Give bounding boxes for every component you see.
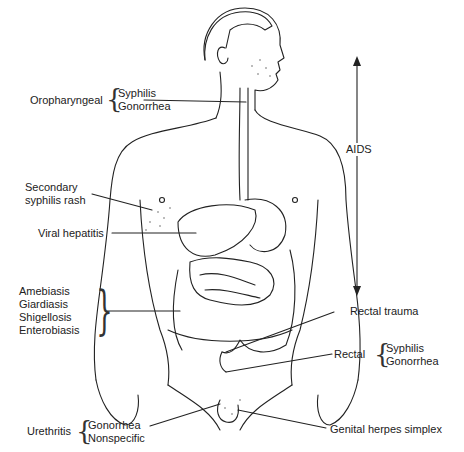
brace-intestinal: { [96,283,113,337]
label-intestinal-infections: Amebiasis Giardiasis Shigellosis Enterob… [19,285,80,337]
aids-arrow-down-icon [353,286,361,296]
torso-left [94,118,216,380]
label-rectal: Rectal [334,348,365,361]
label-urethritis: Urethritis [27,425,71,438]
label-viral-hepatitis: Viral hepatitis [38,227,104,240]
disease-shigellosis: Shigellosis [19,311,80,324]
genitals [218,400,239,422]
aids-arrow-up-icon [353,56,361,66]
small-intestine [190,258,274,305]
label-aids: AIDS [345,143,373,156]
line-rectal [226,354,332,372]
oropharyngeal-diseases: Syphilis Gonorrhea [118,87,171,113]
label-line-1: Secondary [25,181,86,194]
disease-gonorrhea: Gonorrhea [88,419,145,432]
male-body-illustration [0,0,464,452]
urethritis-diseases: Gonorrhea Nonspecific [88,419,145,445]
rectal-diseases: Syphilis Gonorrhea [386,342,439,368]
disease-nonspecific: Nonspecific [88,432,145,445]
line-rectal-trauma [226,312,334,352]
groin-left [168,385,220,430]
esophagus [239,88,248,200]
disease-amebiasis: Amebiasis [19,285,80,298]
label-oropharyngeal: Oropharyngeal [30,94,103,107]
groin-right [240,385,292,430]
label-genital-herpes-simplex: Genital herpes simplex [330,423,442,436]
disease-enterobiasis: Enterobiasis [19,324,80,337]
right-hand [318,380,359,425]
ear [218,47,228,64]
inner-arm-left [140,200,169,385]
disease-gonorrhea: Gonorrhea [118,100,171,113]
disease-syphilis: Syphilis [386,342,439,355]
line-genital-herpes [238,410,326,428]
diagram-canvas: Oropharyngeal { Syphilis Gonorrhea Secon… [0,0,464,452]
stomach [245,199,286,252]
label-secondary-syphilis-rash: Secondary syphilis rash [25,181,86,207]
disease-syphilis: Syphilis [118,87,171,100]
hair [205,12,272,60]
liver [178,205,256,256]
disease-giardiasis: Giardiasis [19,298,80,311]
rectum [220,352,226,372]
waist-line [168,330,292,341]
disease-gonorrhea: Gonorrhea [386,355,439,368]
label-rectal-trauma: Rectal trauma [350,305,418,318]
label-line-2: syphilis rash [25,194,86,207]
neck-left [216,72,221,118]
line-secondary-syphilis [92,194,152,210]
